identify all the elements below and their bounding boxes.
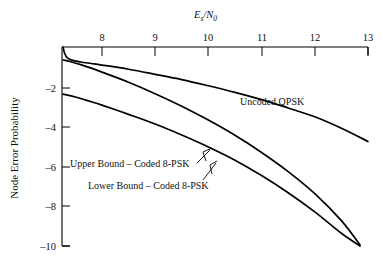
annotation-lower-bound: Lower Bound – Coded 8-PSK bbox=[88, 180, 209, 191]
y-tick-label-minus8: –8 bbox=[45, 201, 57, 212]
x-tick-label-12: 12 bbox=[310, 32, 321, 43]
annotation-upper-bound: Upper Bound – Coded 8-PSK bbox=[70, 158, 190, 169]
x-axis-title-sub-0: 0 bbox=[213, 14, 217, 23]
y-tick-label-minus4: –4 bbox=[45, 122, 57, 133]
y-axis-title: Node Error Probability bbox=[8, 97, 20, 199]
curve-uncoded-qpsk bbox=[63, 47, 368, 141]
x-tick-label-11: 11 bbox=[257, 32, 267, 43]
x-axis-title: Es/N0 bbox=[193, 9, 217, 23]
svg-text:Es/N0: Es/N0 bbox=[193, 9, 217, 23]
curve-upper-bound-coded-8psk bbox=[63, 60, 360, 245]
y-tick-label-minus6: –6 bbox=[45, 162, 57, 173]
chart-figure: 8 9 10 11 12 13 –2 –4 –6 –8 –10 Es/N0 No… bbox=[0, 0, 383, 268]
annotation-uncoded-qpsk: Uncoded QPSK bbox=[240, 96, 305, 107]
y-tick-label-minus10: –10 bbox=[39, 241, 56, 252]
leader-upper-bound bbox=[197, 148, 212, 163]
x-tick-label-10: 10 bbox=[203, 32, 214, 43]
y-tick-label-minus2: –2 bbox=[45, 83, 57, 94]
x-tick-label-13: 13 bbox=[363, 32, 374, 43]
y-tickmarks bbox=[62, 88, 70, 246]
leader-lower-bound bbox=[203, 161, 217, 180]
x-tickmarks bbox=[102, 47, 368, 56]
x-tick-label-8: 8 bbox=[99, 32, 104, 43]
chart-svg: 8 9 10 11 12 13 –2 –4 –6 –8 –10 Es/N0 No… bbox=[0, 0, 383, 268]
x-tick-label-9: 9 bbox=[152, 32, 157, 43]
